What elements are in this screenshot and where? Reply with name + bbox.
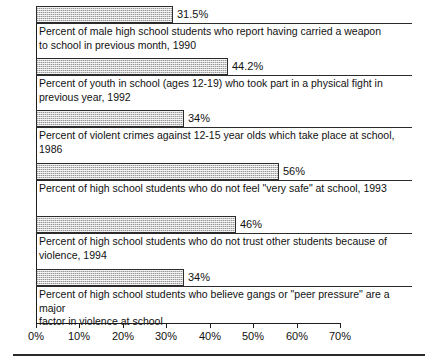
- bar: [36, 58, 228, 75]
- bar-value-label: 31.5%: [177, 6, 208, 23]
- bar: [36, 163, 279, 180]
- bar-rows: 31.5% Percent of male high school studen…: [36, 6, 412, 319]
- bar-track: 34%: [36, 110, 412, 127]
- bar-category-label: Percent of male high school students who…: [36, 23, 412, 58]
- value-axis-line: [36, 323, 340, 324]
- axis-tick-label: 10%: [68, 330, 90, 343]
- bar-row: 34% Percent of high school students who …: [36, 269, 412, 319]
- axis-tick-label: 50%: [242, 330, 264, 343]
- bar-category-label: Percent of youth in school (ages 12-19) …: [36, 75, 412, 110]
- bar-value-label: 34%: [188, 110, 210, 127]
- axis-tick: [253, 323, 254, 328]
- bar-row: 46% Percent of high school students who …: [36, 216, 412, 269]
- bar-category-label: Percent of violent crimes against 12-15 …: [36, 127, 412, 163]
- bar-row: 31.5% Percent of male high school studen…: [36, 6, 412, 58]
- axis-tick-label: 40%: [199, 330, 221, 343]
- bar-row: 56% Percent of high school students who …: [36, 163, 412, 216]
- axis-tick: [297, 323, 298, 328]
- bar-track: 56%: [36, 163, 412, 180]
- axis-tick: [166, 323, 167, 328]
- bar-category-label: Percent of high school students who beli…: [36, 286, 412, 319]
- bar-category-label: Percent of high school students who do n…: [36, 233, 412, 269]
- bar-track: 44.2%: [36, 58, 412, 75]
- bar-track: 34%: [36, 269, 412, 286]
- bar-value-label: 56%: [283, 163, 305, 180]
- bar-category-label: Percent of high school students who do n…: [36, 180, 412, 216]
- bar-track: 46%: [36, 216, 412, 233]
- axis-tick-label: 20%: [112, 330, 134, 343]
- bar-chart-figure: 31.5% Percent of male high school studen…: [0, 0, 433, 364]
- axis-tick: [123, 323, 124, 328]
- bar-track: 31.5%: [36, 6, 412, 23]
- bar-value-label: 46%: [240, 216, 262, 233]
- bar-value-label: 44.2%: [232, 58, 263, 75]
- bar: [36, 216, 236, 233]
- axis-tick: [340, 323, 341, 328]
- bar-row: 44.2% Percent of youth in school (ages 1…: [36, 58, 412, 110]
- axis-tick-label: 60%: [286, 330, 308, 343]
- footer-divider: [13, 354, 425, 356]
- axis-tick-label: 0%: [28, 330, 44, 343]
- axis-tick: [36, 323, 37, 328]
- axis-tick: [210, 323, 211, 328]
- bar: [36, 269, 184, 286]
- bar: [36, 6, 173, 23]
- axis-tick-label: 70%: [329, 330, 351, 343]
- bar-value-label: 34%: [188, 269, 210, 286]
- axis-tick: [79, 323, 80, 328]
- axis-tick-label: 30%: [155, 330, 177, 343]
- bar: [36, 110, 184, 127]
- bar-row: 34% Percent of violent crimes against 12…: [36, 110, 412, 163]
